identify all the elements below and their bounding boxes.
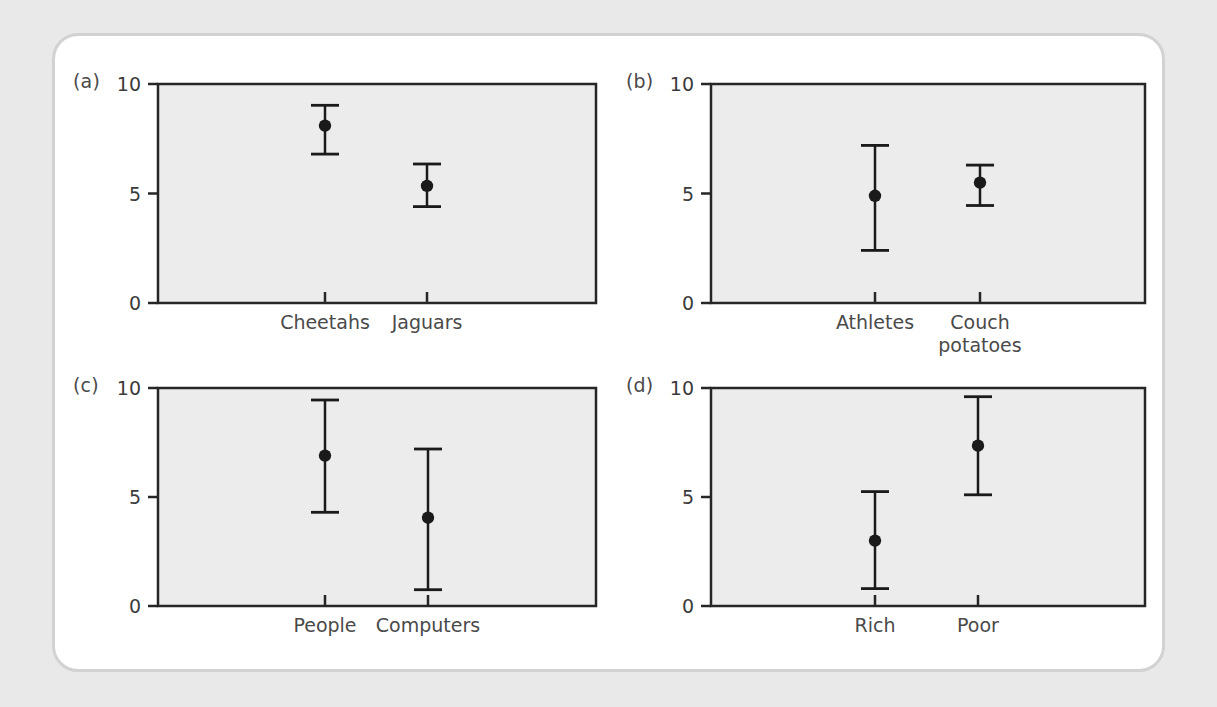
ytick-label-5: 5 <box>129 486 141 508</box>
figure-root: (a) 10 5 0 Cheetahs Jaguars <box>0 0 1217 707</box>
figure-card: (a) 10 5 0 Cheetahs Jaguars <box>52 33 1165 672</box>
panel-b: (b) 10 5 0 Athletes Couch potatoes <box>608 36 1168 346</box>
ytick-label-10: 10 <box>670 377 694 399</box>
panel-a: (a) 10 5 0 Cheetahs Jaguars <box>55 36 615 326</box>
panel-a-plot: 10 5 0 Cheetahs Jaguars <box>55 36 615 326</box>
plot-area-background <box>711 388 1145 606</box>
ytick-label-5: 5 <box>682 486 694 508</box>
ytick-label-10: 10 <box>670 73 694 95</box>
xtick-label-2-line-1: Couch <box>950 311 1009 333</box>
ytick-label-0: 0 <box>682 595 694 617</box>
xtick-label-2: Poor <box>957 614 999 636</box>
xtick-label-1: Cheetahs <box>280 311 370 333</box>
plot-area-background <box>158 388 596 606</box>
panel-b-plot: 10 5 0 Athletes Couch potatoes <box>608 36 1168 346</box>
ytick-label-10: 10 <box>117 73 141 95</box>
ytick-label-0: 0 <box>129 292 141 314</box>
ytick-label-0: 0 <box>129 595 141 617</box>
ytick-label-5: 5 <box>682 183 694 205</box>
ytick-label-10: 10 <box>117 377 141 399</box>
panel-c-plot: 10 5 0 People Computers <box>55 340 615 640</box>
plot-area-background <box>711 84 1145 303</box>
panel-d-plot: 10 5 0 Rich Poor <box>608 340 1168 640</box>
panel-d: (d) 10 5 0 Rich Poor <box>608 340 1168 640</box>
xtick-label-1: Athletes <box>836 311 914 333</box>
xtick-label-2: Jaguars <box>391 311 463 333</box>
panel-c: (c) 10 5 0 People Computers <box>55 340 615 640</box>
xtick-label-1: Rich <box>855 614 896 636</box>
xtick-label-2: Computers <box>376 614 480 636</box>
ytick-label-5: 5 <box>129 183 141 205</box>
plot-area-background <box>158 84 596 303</box>
ytick-label-0: 0 <box>682 292 694 314</box>
xtick-label-1: People <box>293 614 356 636</box>
